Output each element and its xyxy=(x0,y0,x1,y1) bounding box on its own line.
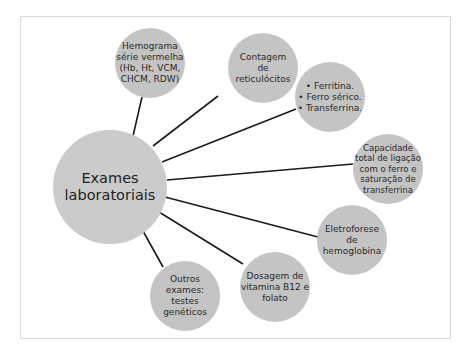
node-label: Eletroforese de hemoglobina xyxy=(323,224,382,257)
link-eletroforese xyxy=(165,197,318,237)
node-outros-exames: Outros exames: testes genéticos xyxy=(150,261,220,331)
node-label: Outros exames: testes genéticos xyxy=(163,274,207,318)
node-label: Contagem de reticulócitos xyxy=(236,52,291,85)
link-ferro xyxy=(162,109,296,162)
center-node-label: Exames laboratoriais xyxy=(65,170,156,204)
node-label: Hemograma série vermelha (Hb, Ht, VCM, C… xyxy=(116,41,183,85)
node-ferro: • Ferritina. • Ferro sérico. • Transferr… xyxy=(295,62,365,132)
node-capacidade: Capacidade total de ligação com o ferro … xyxy=(353,134,423,204)
link-dosagem xyxy=(159,212,243,264)
link-outros xyxy=(143,231,163,267)
link-hemograma xyxy=(133,97,142,136)
center-node: Exames laboratoriais xyxy=(53,130,167,244)
link-capacidade xyxy=(167,164,353,180)
node-dosagem: Dosagem de vitamina B12 e folato xyxy=(240,252,310,322)
node-contagem-reticulocitos: Contagem de reticulócitos xyxy=(228,33,298,103)
node-hemograma: Hemograma série vermelha (Hb, Ht, VCM, C… xyxy=(115,28,185,98)
node-label: Capacidade total de ligação com o ferro … xyxy=(355,143,421,196)
node-label: Dosagem de vitamina B12 e folato xyxy=(241,271,309,304)
link-contagem xyxy=(153,96,218,146)
node-label: • Ferritina. • Ferro sérico. • Transferr… xyxy=(298,81,362,114)
node-eletroforese: Eletroforese de hemoglobina xyxy=(317,205,387,275)
